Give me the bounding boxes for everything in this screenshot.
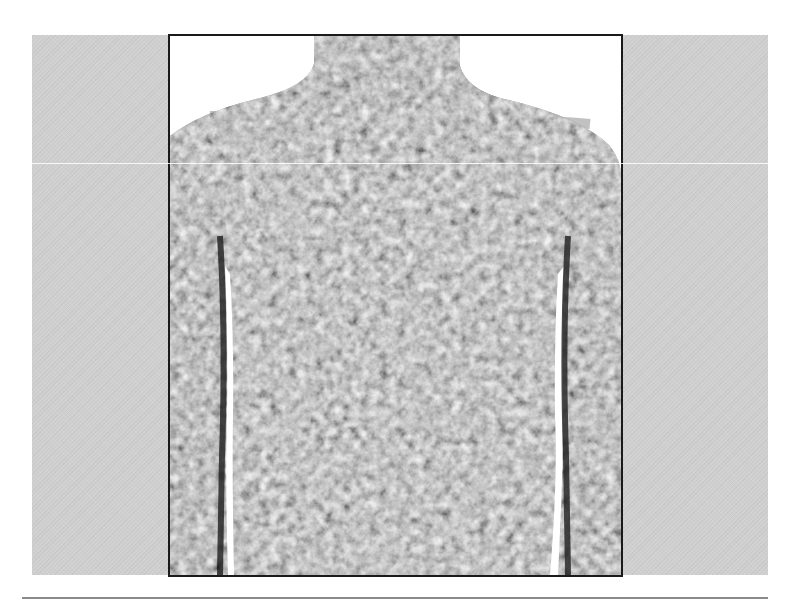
bottom-divider-rule: [22, 597, 768, 599]
clinical-photo-frame: [168, 34, 623, 577]
torso-photograph: [170, 36, 621, 575]
body-silhouette: [170, 36, 621, 575]
scan-seam-line: [32, 163, 768, 164]
